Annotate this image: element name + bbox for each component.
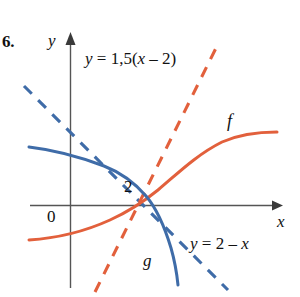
- equation-red-tangent: y = 1,5(x – 2): [85, 50, 176, 67]
- x-axis-label: x: [277, 213, 285, 230]
- equation-blue-tangent: y = 2 – x: [190, 235, 249, 252]
- y-axis-label: y: [48, 32, 56, 49]
- curve-label-g: g: [143, 252, 152, 269]
- equation-blue-var: x: [241, 234, 249, 253]
- equation-red-lhs: y: [85, 49, 93, 68]
- curve-f-red: [29, 132, 277, 240]
- equation-blue-lhs: y: [190, 234, 198, 253]
- equation-blue-operator: = 2 –: [198, 234, 242, 253]
- figure-root: 6. y x 0 2 f g y = 1,5: [0, 0, 300, 297]
- equation-red-rhs: – 2): [145, 49, 176, 68]
- equation-red-operator: = 1,5(: [93, 49, 138, 68]
- origin-label: 0: [47, 208, 56, 225]
- curve-label-f: f: [227, 112, 232, 130]
- equation-red-var: x: [138, 49, 146, 68]
- intercept-label-2: 2: [124, 178, 133, 195]
- y-axis-arrowhead: [66, 32, 76, 45]
- x-axis-arrowhead: [272, 201, 283, 211]
